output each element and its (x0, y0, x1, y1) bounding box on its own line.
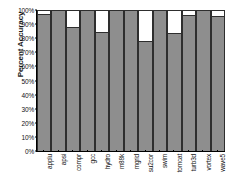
x-axis-tick-mark (159, 150, 160, 152)
x-axis-tick-label: wave5 (219, 154, 226, 172)
plot-area: 0%10%20%30%40%50%60%70%80%90%100% (36, 10, 225, 152)
x-axis-label-slot: m88k (108, 152, 122, 179)
bar-series (37, 10, 225, 151)
bar-value (37, 14, 51, 151)
x-axis-label-slot: su2cor (137, 152, 151, 179)
x-axis-label-slot: compr (65, 152, 79, 179)
bar-value (109, 10, 123, 151)
x-axis-tick-mark (173, 150, 174, 152)
bar-value (51, 10, 65, 151)
x-axis-tick-mark (58, 150, 59, 152)
bar-remainder (95, 10, 109, 32)
x-axis-tick-mark (188, 150, 189, 152)
bar-value (153, 10, 167, 151)
bar-value (196, 10, 210, 151)
y-axis-tick-label: 80% (22, 35, 34, 42)
x-axis-label-slot: tomcat (166, 152, 180, 179)
bar-value (167, 33, 181, 151)
y-axis-tick-label: 40% (22, 91, 34, 98)
x-axis-label-slot: turb3d (181, 152, 195, 179)
y-axis-tick-label: 0% (25, 148, 34, 155)
y-axis-tick-label: 90% (22, 21, 34, 28)
x-axis-label-slot: mgrid (123, 152, 137, 179)
x-axis-tick-mark (87, 150, 88, 152)
bar-value (95, 32, 109, 151)
bar-item (138, 10, 152, 151)
bar-item (124, 10, 138, 151)
x-axis-tick-mark (130, 150, 131, 152)
bar-chart-figure: Percent Accuracy 0%10%20%30%40%50%60%70%… (0, 0, 228, 179)
y-axis-tick-label: 50% (22, 77, 34, 84)
bar-item (182, 10, 196, 151)
y-axis-tick-label: 30% (22, 105, 34, 112)
x-axis-labels: appluapsicomprgcchydrom88kmgridsu2corswi… (36, 152, 224, 179)
bar-item (51, 10, 65, 151)
bar-value (182, 15, 196, 151)
y-axis-tick-label: 60% (22, 63, 34, 70)
y-axis-tick-label: 100% (18, 7, 34, 14)
x-axis-label-slot: hydro (94, 152, 108, 179)
x-axis-label-slot: wave5 (210, 152, 224, 179)
bar-item (153, 10, 167, 151)
x-axis-tick-mark (101, 150, 102, 152)
bar-item (167, 10, 181, 151)
y-axis-tick-label: 20% (22, 119, 34, 126)
x-axis-tick-mark (116, 150, 117, 152)
x-axis-tick-mark (72, 150, 73, 152)
bar-item (211, 10, 225, 151)
bar-item (37, 10, 51, 151)
bar-value (80, 10, 94, 151)
bar-item (109, 10, 123, 151)
x-axis-label-slot: gcc (79, 152, 93, 179)
x-axis-label-slot: apsi (50, 152, 64, 179)
bar-remainder (66, 10, 80, 27)
bar-value (138, 41, 152, 151)
bar-item (80, 10, 94, 151)
x-axis-label-slot: swim (152, 152, 166, 179)
bar-value (66, 27, 80, 151)
x-axis-tick-mark (217, 150, 218, 152)
x-axis-tick-mark (145, 150, 146, 152)
x-axis-label-slot: applu (36, 152, 50, 179)
bar-remainder (167, 10, 181, 33)
bar-item (95, 10, 109, 151)
bar-item (196, 10, 210, 151)
bar-item (66, 10, 80, 151)
x-axis-tick-mark (43, 150, 44, 152)
x-axis-tick-mark (202, 150, 203, 152)
bar-value (124, 10, 138, 151)
bar-value (211, 16, 225, 151)
bar-remainder (138, 10, 152, 41)
x-axis-label-slot: vortex (195, 152, 209, 179)
y-axis-tick-label: 10% (22, 133, 34, 140)
y-axis-tick-label: 70% (22, 49, 34, 56)
